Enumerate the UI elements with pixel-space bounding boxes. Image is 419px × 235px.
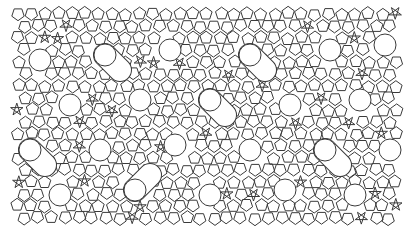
pentagon-tile [371, 20, 383, 32]
pentagram-tile [126, 212, 138, 224]
pentagon-tile [38, 176, 50, 188]
pentagon-tile [262, 21, 274, 33]
pentagon-tile [310, 104, 322, 116]
pentagon-tile [161, 177, 173, 189]
pentagon-tile [114, 21, 126, 33]
circle-tile [49, 184, 71, 206]
pentagon-tile [322, 80, 334, 92]
pentagon-tile [390, 81, 402, 93]
circle-tile [164, 134, 186, 156]
pentagon-tile [242, 176, 254, 188]
pentagon-tile [376, 80, 388, 92]
pentagon-tile [295, 30, 307, 42]
circle-tile [274, 179, 296, 201]
pentagon-tile [227, 127, 239, 139]
pentagon-tile [362, 7, 374, 19]
pentagon-tile [382, 214, 394, 226]
pentagon-tile [167, 19, 179, 31]
pentagon-tile [281, 33, 293, 45]
pentagon-tile [355, 164, 367, 176]
pentagram-tile [11, 103, 23, 115]
pentagon-tile [234, 164, 246, 176]
pentagon-tile [126, 21, 138, 33]
pentagon-tile [274, 20, 286, 32]
pentagram-tile [74, 116, 86, 128]
pentagon-tile [114, 115, 126, 127]
pentagon-tile [262, 164, 274, 176]
pentagon-tile [254, 102, 266, 114]
pentagon-tile [363, 177, 375, 189]
pentagon-tile [72, 188, 84, 200]
pentagon-tile [46, 140, 58, 152]
pentagram-tile [301, 21, 313, 33]
pentagon-tile [275, 116, 287, 128]
pentagon-tile [73, 164, 85, 176]
pentagon-tile [85, 67, 97, 79]
pentagon-tile [208, 165, 220, 177]
pentagon-tile [166, 92, 178, 104]
pentagon-tile [113, 93, 125, 105]
pentagon-tile [208, 141, 220, 153]
pentagon-tile [66, 31, 78, 43]
pentagon-tile [335, 104, 347, 116]
pentagon-tile [283, 57, 295, 69]
pentagon-tile [289, 20, 301, 32]
pentagon-tile [139, 140, 151, 152]
circle-tile [319, 39, 341, 61]
pentagon-tile [268, 32, 280, 44]
pentagon-tile [228, 79, 240, 91]
pentagon-tile [317, 20, 329, 32]
pentagon-tile [350, 55, 362, 67]
pentagon-tile [39, 7, 51, 19]
pentagon-tile [188, 178, 200, 190]
pentagon-tile [154, 69, 166, 81]
pentagon-tile [308, 10, 320, 22]
pentagon-tile [308, 78, 320, 90]
pentagon-tile [382, 92, 394, 104]
pentagon-tile [67, 81, 79, 93]
pentagon-tile [329, 69, 341, 81]
pentagon-tile [329, 188, 341, 200]
pentagon-tile [187, 128, 199, 140]
pentagon-tile [194, 214, 206, 226]
pentagon-tile [65, 55, 77, 67]
pentagon-tile [134, 153, 146, 165]
pentagon-tile [249, 164, 261, 176]
pentagon-tile [139, 115, 151, 127]
pentagon-tile [159, 200, 171, 212]
circle-tile [349, 89, 371, 111]
pentagon-tile [357, 20, 369, 32]
pentagon-tile [343, 140, 355, 152]
pentagon-tile [247, 116, 259, 128]
pentagon-tile [58, 68, 70, 80]
pentagon-tile [52, 79, 64, 91]
pentagon-tile [323, 9, 335, 21]
pentagon-tile [194, 45, 206, 57]
pentagon-tile [375, 199, 387, 211]
pentagram-tile [390, 198, 402, 210]
pentagon-tile [119, 128, 131, 140]
pentagon-tile [228, 176, 240, 188]
pentagon-tile [281, 128, 293, 140]
pentagon-tile [33, 116, 45, 128]
pentagon-tile [274, 44, 286, 56]
pentagon-tile [66, 151, 78, 163]
pentagon-tile [168, 213, 180, 225]
pentagon-tile [371, 116, 383, 128]
pentagon-tile [209, 214, 221, 226]
pentagon-tile [309, 31, 321, 43]
pentagon-tile [254, 8, 266, 20]
pentagon-tile [59, 139, 71, 151]
pentagon-tile [101, 188, 113, 200]
pentagon-tile [99, 165, 111, 177]
pentagon-tile [220, 140, 232, 152]
pentagon-tile [303, 68, 315, 80]
pentagon-tile [167, 164, 179, 176]
pentagon-tile [107, 200, 119, 212]
pentagon-tile [216, 128, 228, 140]
pentagon-tile [59, 44, 71, 56]
pentagon-tile [315, 68, 327, 80]
pentagon-tile [93, 81, 105, 93]
pentagon-tile [186, 7, 198, 19]
pentagon-tile [174, 201, 186, 213]
